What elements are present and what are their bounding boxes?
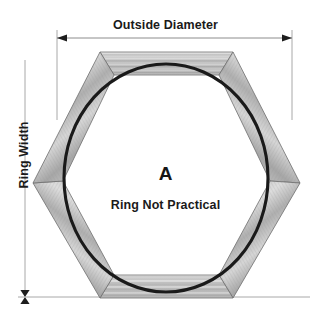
arrowhead-right-icon [282,35,292,42]
ring-width-label: Ring Width [17,95,31,215]
outside-diameter-label: Outside Diameter [0,18,331,32]
ring-not-practical-label: Ring Not Practical [0,198,331,212]
diagram-letter-label: A [0,163,331,185]
ring-layout-diagram: Outside Diameter Ring Width A Ring Not P… [0,0,331,326]
arrowhead-left-icon [57,35,67,42]
arrowhead-down-lower-icon [20,297,29,304]
arrowhead-down-upper-icon [20,290,29,297]
